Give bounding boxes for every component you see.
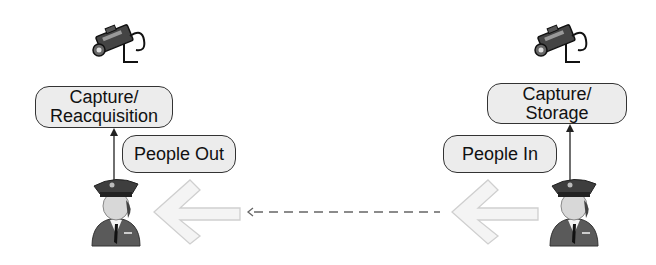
left-arrow-icon	[150, 178, 242, 246]
dashed-connector-arrow	[246, 206, 442, 218]
left-arrow-icon	[448, 178, 540, 246]
capture-storage-box: Capture/ Storage	[487, 83, 627, 124]
security-guard-icon	[546, 174, 602, 246]
people-in-label: People In	[443, 135, 557, 173]
capture-reacquisition-box: Capture/ Reacquisition	[35, 86, 173, 128]
capture-reacquisition-line1: Capture/	[36, 88, 172, 107]
people-in-text: People In	[444, 145, 556, 164]
people-out-label: People Out	[122, 135, 236, 173]
capture-storage-line2: Storage	[488, 104, 626, 123]
capture-reacquisition-line2: Reacquisition	[36, 107, 172, 126]
people-out-text: People Out	[123, 145, 235, 164]
surveillance-camera-icon	[90, 20, 152, 64]
capture-storage-line1: Capture/	[488, 85, 626, 104]
security-guard-icon	[88, 174, 144, 246]
surveillance-camera-icon	[532, 20, 594, 64]
